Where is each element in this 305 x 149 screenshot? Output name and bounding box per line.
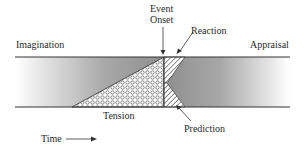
imagination-label: Imagination	[16, 39, 64, 50]
event-onset-arrow	[161, 27, 166, 55]
time-label: Time	[41, 133, 62, 144]
prediction-label: Prediction	[184, 123, 225, 134]
event-onset-label-line2: Onset	[150, 14, 173, 25]
appraisal-band	[164, 57, 290, 107]
reaction-label: Reaction	[191, 25, 227, 36]
appraisal-label: Appraisal	[250, 39, 289, 50]
tension-label: Tension	[103, 110, 135, 121]
event-onset-label-line1: Event	[150, 3, 173, 14]
time-arrow	[66, 137, 97, 142]
